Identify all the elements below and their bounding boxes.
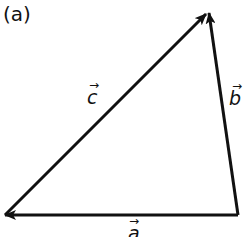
vector-a-label: →a [128,222,140,237]
vector-b [209,13,238,215]
vector-triangle-diagram [0,0,252,237]
vector-c-label: →c [87,86,97,108]
figure-label: (a) [3,2,31,26]
vector-c [5,14,206,215]
vector-b-label: →b [229,87,241,109]
